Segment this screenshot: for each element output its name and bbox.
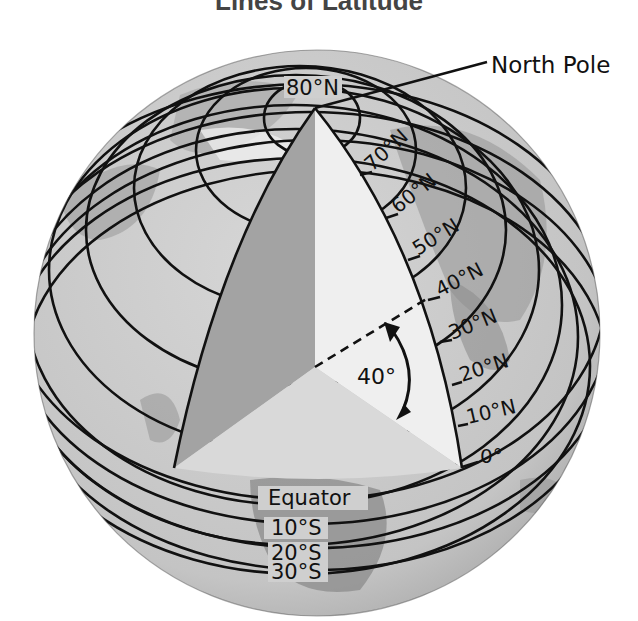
latitude-label-10s: 10°S	[271, 516, 322, 540]
equator-label: Equator	[268, 486, 351, 510]
latitude-label-80n: 80°N	[286, 76, 339, 100]
latitude-globe-diagram: North Pole 80°N 70°N 60°N 50°N 40°N 30°N…	[0, 0, 638, 621]
latitude-label-equator-deg: 0°	[480, 444, 503, 468]
angle-label: 40°	[357, 364, 396, 389]
latitude-label-30s: 30°S	[271, 560, 322, 584]
north-pole-label: North Pole	[491, 52, 610, 78]
